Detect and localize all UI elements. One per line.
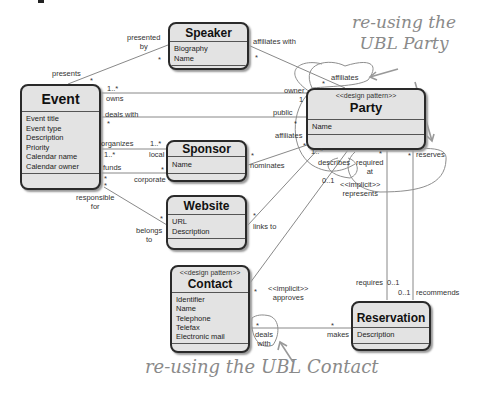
- mult-star: *: [255, 53, 258, 62]
- label-recommends: recommends: [416, 288, 459, 297]
- class-title: Website: [168, 199, 245, 214]
- mult-star: *: [161, 165, 164, 174]
- label-implicit-represents: <<implicit>> represents: [340, 180, 380, 198]
- attribute: Electronic mail: [176, 332, 244, 341]
- label-owner: owner: [284, 86, 304, 95]
- uml-class-diagram: Speaker Biography Name Event Event title…: [0, 0, 478, 393]
- label-links-to: links to: [253, 222, 276, 231]
- mult-one-star: 1..*: [150, 139, 161, 148]
- class-sponsor[interactable]: Sponsor Name: [166, 140, 247, 182]
- attribute: Name: [174, 54, 243, 64]
- class-attributes: Event title Event type Description Prior…: [22, 111, 99, 174]
- annotation-party-note: re-using the UBL Party: [352, 12, 456, 54]
- label-nominates: nominates: [250, 161, 285, 170]
- class-attributes: Biography Name: [170, 41, 247, 66]
- class-attributes: Name: [308, 119, 424, 135]
- label-presents: presents: [52, 69, 81, 78]
- attribute: Calendar name: [26, 152, 95, 162]
- label-responsible-for: responsible for: [76, 193, 114, 211]
- mult-star: *: [158, 55, 161, 64]
- mult-star: *: [251, 151, 254, 160]
- mult-star: *: [160, 214, 163, 223]
- attribute: URL: [172, 217, 241, 227]
- mult-star: *: [294, 119, 297, 128]
- class-reservation[interactable]: Reservation Description: [351, 301, 431, 351]
- label-presented-by: presented by: [127, 33, 160, 51]
- mult-one: 1: [299, 95, 303, 104]
- class-contact[interactable]: <<design pattern>> Contact Identifier Na…: [170, 265, 250, 353]
- label-owns: owns: [106, 94, 124, 103]
- label-public: public: [273, 108, 293, 117]
- class-attributes: Name: [168, 156, 245, 174]
- mult-one-star: 1..*: [107, 84, 118, 93]
- mult-star: *: [256, 321, 259, 330]
- annotation-contact-note: re-using the UBL Contact: [145, 356, 379, 377]
- label-corporate: corporate: [134, 175, 166, 184]
- attribute: Name: [312, 122, 420, 132]
- attribute: Telephone: [176, 314, 244, 323]
- mult-one-dot: 1..: [311, 147, 319, 156]
- mult-star: *: [320, 146, 323, 155]
- label-funds: funds: [103, 163, 121, 172]
- class-stereotype: <<design pattern>>: [172, 269, 248, 277]
- label-reserves: reserves: [416, 150, 445, 159]
- label-implicit-approves: <<implicit>> approves: [268, 284, 308, 302]
- mult-star: *: [303, 141, 306, 150]
- mult-star: *: [408, 151, 411, 160]
- mult-zero-one: 0..1: [387, 278, 400, 287]
- class-attributes: Identifier Name Telephone Telefax Electr…: [172, 292, 248, 344]
- label-makes: makes: [327, 330, 349, 339]
- attribute: Telefax: [176, 323, 244, 332]
- class-title: Sponsor: [168, 142, 245, 156]
- class-title: Party: [308, 100, 424, 116]
- label-deals-with: deals with: [105, 110, 138, 119]
- label-belongs-to: belongs to: [136, 226, 162, 244]
- class-website[interactable]: Website URL Description: [166, 195, 247, 250]
- label-affiliates-left: affiliates: [275, 131, 302, 140]
- mult-star: *: [379, 149, 382, 158]
- mult-star: *: [331, 321, 334, 330]
- attribute: Description: [357, 330, 425, 340]
- mult-one-star: 1..*: [104, 150, 115, 159]
- attribute: Event type: [26, 124, 95, 134]
- label-required-at: required at: [356, 158, 384, 176]
- mult-star: *: [90, 76, 93, 85]
- mult-star: *: [107, 119, 110, 128]
- label-deals-with-contact: deals with: [255, 330, 273, 348]
- label-describes: describes: [318, 158, 350, 167]
- class-attributes: Description: [353, 327, 429, 344]
- class-title: Reservation: [353, 311, 429, 327]
- label-local: local: [149, 150, 164, 159]
- attribute: Description: [26, 133, 95, 143]
- class-title: Event: [22, 91, 99, 111]
- label-affiliates-top: affiliates: [331, 73, 358, 82]
- mult-star: *: [104, 181, 107, 190]
- label-requires: requires: [356, 278, 383, 287]
- attribute: Calendar owner: [26, 162, 95, 172]
- mult-star: *: [253, 211, 256, 220]
- attribute: Identifier: [176, 295, 244, 304]
- attribute: Description: [172, 227, 241, 237]
- class-speaker[interactable]: Speaker Biography Name: [168, 22, 249, 70]
- attribute: Event title: [26, 114, 95, 124]
- class-party[interactable]: <<design pattern>> Party Name: [306, 88, 426, 150]
- mult-zero-one: 0..1: [398, 288, 411, 297]
- mult-star: *: [322, 79, 325, 88]
- label-organizes: organizes: [101, 139, 134, 148]
- class-title: Contact: [172, 277, 248, 292]
- cropped-heading-fragment: [38, 0, 44, 3]
- class-event[interactable]: Event Event title Event type Description…: [20, 84, 101, 190]
- class-attributes: URL Description: [168, 214, 245, 239]
- attribute: Name: [172, 160, 241, 170]
- class-stereotype: <<design pattern>>: [308, 92, 424, 100]
- label-affiliates-with: affiliates with: [253, 37, 296, 46]
- class-title: Speaker: [170, 26, 247, 40]
- attribute: Priority: [26, 143, 95, 153]
- attribute: Name: [176, 304, 244, 313]
- attribute: Biography: [174, 44, 243, 54]
- mult-zero-one: 0..1: [322, 176, 335, 185]
- mult-star: *: [254, 287, 257, 296]
